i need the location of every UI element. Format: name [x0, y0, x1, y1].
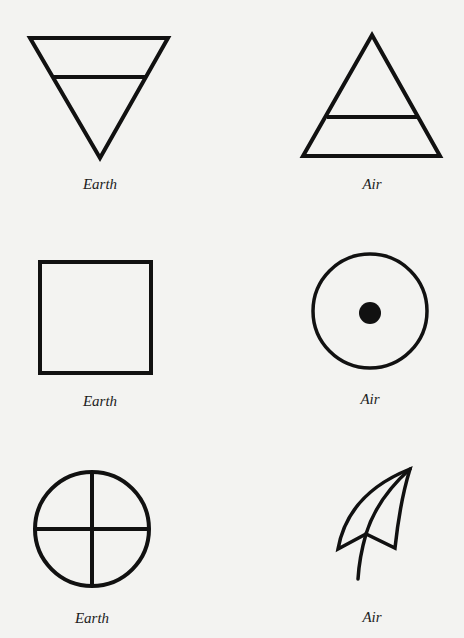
- symbol-label: Earth: [83, 393, 117, 410]
- air-leaf-icon: [338, 469, 410, 579]
- symbol-label: Earth: [83, 176, 117, 193]
- symbol-label: Air: [362, 609, 381, 626]
- air-circle-dot-icon: [313, 254, 427, 368]
- symbol-label: Air: [360, 391, 379, 408]
- symbol-label: Earth: [75, 610, 109, 627]
- element-symbols-page: Earth Air Earth Air Earth Air: [0, 0, 464, 638]
- air-triangle-icon: [303, 35, 440, 156]
- symbols-canvas: [0, 0, 464, 638]
- symbol-label: Air: [362, 176, 381, 193]
- earth-square-icon: [40, 262, 151, 373]
- earth-inverted-triangle-icon: [30, 38, 168, 158]
- earth-circle-cross-icon: [35, 472, 149, 586]
